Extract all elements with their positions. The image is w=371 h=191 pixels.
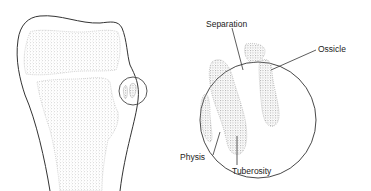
label-physis: Physis: [180, 152, 205, 162]
marker-ossicle: [130, 83, 137, 97]
metaphysis: [37, 78, 118, 191]
label-separation: Separation: [206, 19, 247, 29]
ossicle-upper-fragment: [245, 43, 265, 62]
epiphysis: [24, 30, 120, 75]
marker-tuberosity: [123, 86, 127, 99]
label-ossicle: Ossicle: [318, 44, 346, 54]
bone-overview: [17, 16, 147, 191]
separation-leader: [232, 28, 243, 70]
label-tuberosity: Tuberosity: [232, 166, 272, 176]
tuberosity-region: [209, 60, 247, 155]
ossicle-leader: [271, 50, 316, 70]
diagram-canvas: Separation Ossicle Physis Tuberosity: [0, 0, 371, 191]
ossicle-region: [259, 60, 279, 127]
physis-leader: [213, 132, 220, 155]
magnified-inset: Separation Ossicle Physis Tuberosity: [180, 19, 346, 178]
